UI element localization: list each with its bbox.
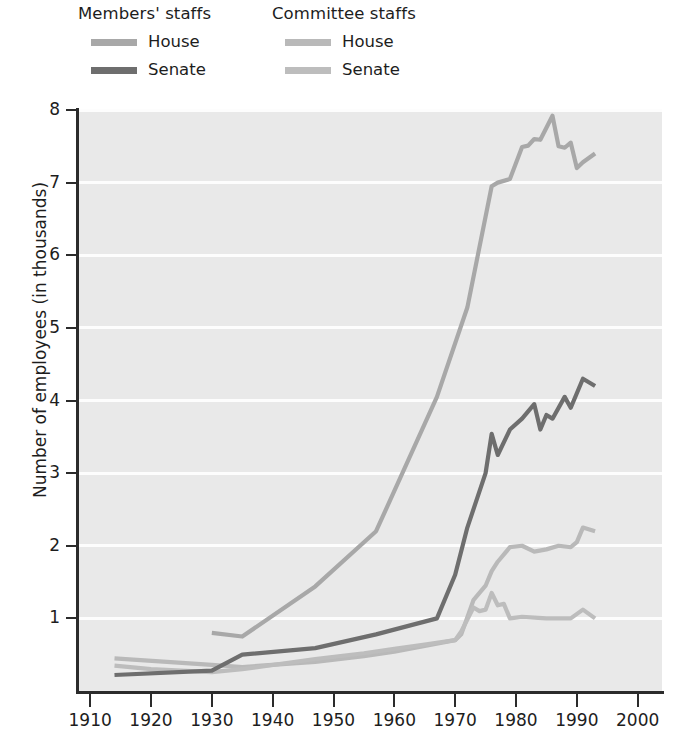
y-tick-mark [66, 472, 76, 474]
x-tick-label: 1940 [243, 710, 303, 730]
x-tick-label: 1990 [547, 710, 607, 730]
y-tick-mark [66, 545, 76, 547]
y-tick-mark [66, 254, 76, 256]
legend-item-members-house: House [78, 32, 211, 52]
legend-group-title: Committee staffs [272, 4, 416, 24]
legend-swatch-icon [91, 39, 137, 46]
x-tick-label: 1980 [486, 710, 546, 730]
plot-area [78, 110, 662, 691]
x-tick-label: 1910 [60, 710, 120, 730]
legend-group-committee-staffs: Committee staffs House Senate [272, 4, 416, 80]
legend-item-label: Senate [148, 60, 206, 80]
staff-growth-line-chart: Members' staffs House Senate Committee s… [0, 0, 684, 741]
x-tick-label: 1970 [425, 710, 485, 730]
x-tick-mark [637, 694, 639, 707]
y-axis-title: Number of employees (in thousands) [30, 130, 50, 550]
x-tick-mark [393, 694, 395, 707]
x-tick-mark [89, 694, 91, 707]
x-tick-label: 2000 [608, 710, 668, 730]
legend-group-members-staffs: Members' staffs House Senate [78, 4, 211, 80]
x-tick-mark [272, 694, 274, 707]
x-tick-label: 1960 [364, 710, 424, 730]
legend-item-committee-house: House [272, 32, 416, 52]
legend-item-label: Senate [342, 60, 400, 80]
series-line [212, 116, 595, 637]
y-tick-label: 1 [30, 609, 60, 626]
x-tick-mark [150, 694, 152, 707]
legend-item-label: House [148, 32, 200, 52]
series-line [115, 593, 596, 672]
y-tick-mark [66, 400, 76, 402]
y-tick-mark [66, 182, 76, 184]
legend-item-label: House [342, 32, 394, 52]
y-axis-line [76, 108, 79, 693]
y-tick-mark [66, 327, 76, 329]
x-tick-mark [211, 694, 213, 707]
legend-swatch-icon [285, 67, 331, 74]
y-tick-label: 8 [30, 101, 60, 118]
x-tick-label: 1920 [121, 710, 181, 730]
x-tick-mark [454, 694, 456, 707]
x-tick-mark [576, 694, 578, 707]
x-tick-mark [333, 694, 335, 707]
legend-swatch-icon [91, 67, 137, 74]
y-tick-mark [66, 617, 76, 619]
legend-item-members-senate: Senate [78, 60, 211, 80]
legend-swatch-icon [285, 39, 331, 46]
legend-item-committee-senate: Senate [272, 60, 416, 80]
x-tick-label: 1950 [304, 710, 364, 730]
series-lines [78, 110, 662, 691]
legend-group-title: Members' staffs [78, 4, 211, 24]
chart-legend: Members' staffs House Senate Committee s… [0, 0, 684, 96]
series-line [115, 379, 596, 675]
x-tick-mark [515, 694, 517, 707]
x-tick-label: 1930 [182, 710, 242, 730]
y-tick-mark [66, 109, 76, 111]
